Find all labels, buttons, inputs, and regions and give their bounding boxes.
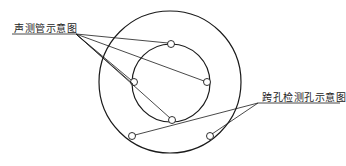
crosshole-marker: [129, 133, 136, 140]
outer-circle: [99, 11, 241, 153]
crosshole-label: 跨孔检测孔示意图: [262, 89, 346, 104]
inner-circle: [132, 44, 210, 122]
tube-leader-line: [76, 34, 168, 43]
sonic-tube-marker: [204, 79, 211, 86]
diagram-canvas: 声测管示意图 跨孔检测孔示意图: [0, 0, 346, 166]
hole-leader-line: [212, 103, 258, 134]
hole-leader-line: [135, 103, 258, 135]
sonic-tube-marker: [168, 41, 175, 48]
tube-leader-line: [76, 34, 204, 81]
sonic-tube-label: 声测管示意图: [14, 20, 77, 35]
sonic-tube-marker: [131, 79, 138, 86]
